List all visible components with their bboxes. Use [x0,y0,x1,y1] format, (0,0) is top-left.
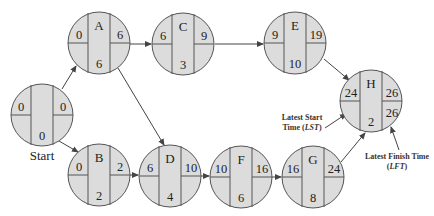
node-b-right: 2 [117,160,123,174]
node-e-duration: 10 [289,57,302,71]
node-d-right: 10 [185,161,198,175]
node-g: G 16 24 8 [282,146,344,208]
node-start-right: 0 [60,100,66,114]
edge-start-b [59,141,78,152]
lst-line1: Latest Start [282,113,323,122]
edge-g-h [341,133,365,162]
node-f-left: 10 [215,162,228,176]
edge-start-a [62,66,76,89]
node-a-right: 6 [117,28,123,42]
node-d: D 6 10 4 [139,145,201,207]
network-diagram: 0 0 0 Start A 0 6 6 B 0 2 2 C 6 9 3 [0,0,434,216]
node-c-letter: C [179,19,188,34]
lft-line1: Latest Finish Time [365,152,430,161]
node-h-duration: 2 [368,115,374,129]
node-g-letter: G [308,152,317,167]
node-c-left: 6 [160,29,166,43]
node-f: F 10 16 6 [210,146,272,208]
node-d-duration: 4 [167,190,174,204]
node-a-letter: A [94,18,104,33]
node-b-left: 0 [76,160,82,174]
node-h: H 24 26 26 2 [340,70,402,132]
node-d-left: 6 [147,161,153,175]
node-g-right: 24 [328,162,341,176]
node-g-duration: 8 [310,191,316,205]
edge-a-d [118,68,164,145]
node-e-right: 19 [310,28,323,42]
node-a-duration: 6 [96,57,102,71]
node-c: C 6 9 3 [152,13,214,75]
lft-annotation: Latest Finish Time (LFT) [365,152,430,171]
lst-pointer [325,114,346,128]
start-label: Start [30,148,55,163]
node-a: A 0 6 6 [68,12,130,74]
node-b: B 0 2 2 [68,144,130,206]
lft-pointer [391,127,399,150]
node-c-duration: 3 [180,58,186,72]
lst-annotation: Latest Start Time (LST) [282,113,323,132]
node-h-letter: H [366,76,375,91]
node-c-right: 9 [201,29,207,43]
node-e: E 9 19 10 [264,12,326,74]
node-h-right: 26 [386,86,399,100]
node-f-right: 16 [256,162,269,176]
node-e-letter: E [291,18,299,33]
node-d-letter: D [165,151,174,166]
node-h-left: 24 [345,86,358,100]
lft-line2: (LFT) [387,162,408,171]
edge-e-h [324,59,349,80]
node-start-left: 0 [18,100,24,114]
node-e-left: 9 [272,28,278,42]
node-b-duration: 2 [96,189,102,203]
node-f-letter: F [237,152,244,167]
node-g-left: 16 [287,162,300,176]
lst-line2: Time (LST) [282,123,322,132]
node-start-duration: 0 [39,129,45,143]
node-h-right-lower: 26 [386,106,399,120]
node-a-left: 0 [76,28,82,42]
node-b-letter: B [95,150,104,165]
node-f-duration: 6 [238,191,244,205]
node-start: 0 0 0 [11,84,73,146]
